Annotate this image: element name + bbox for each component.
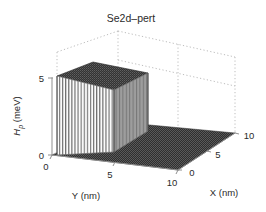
x-tick-10: 10 [244, 130, 255, 141]
y-axis-label: Y (nm) [72, 190, 100, 201]
svg-text:Hp (meV): Hp (meV) [11, 96, 25, 135]
z-tick-5: 5 [39, 73, 44, 84]
x-tick-5: 5 [215, 149, 220, 160]
plateau-front-face [57, 76, 114, 155]
z-tick-0: 0 [39, 150, 44, 161]
z-axis-label-unit: (meV) [11, 96, 22, 125]
surface-plot-3d: Se2d–pert 5 0 0 5 10 0 5 10 Y (nm) X (nm… [0, 0, 266, 212]
x-tick-0: 0 [189, 167, 194, 178]
y-tick-10: 10 [167, 177, 178, 188]
y-tick-0: 0 [43, 161, 48, 172]
plot-title: Se2d–pert [107, 12, 156, 24]
figure-container: Se2d–pert 5 0 0 5 10 0 5 10 Y (nm) X (nm… [0, 0, 266, 212]
grid-top-right [118, 31, 235, 57]
y-tick-5: 5 [107, 169, 112, 180]
x-axis-label: X (nm) [210, 187, 239, 198]
z-axis-label: Hp (meV) [11, 96, 25, 135]
grid-top-left [57, 31, 118, 52]
